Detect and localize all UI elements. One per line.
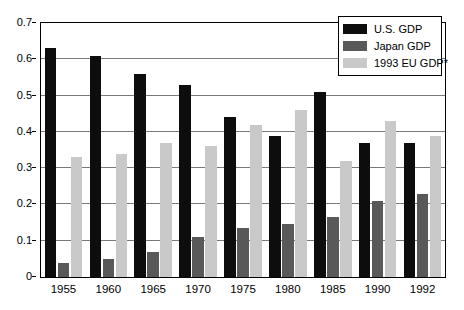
bar-japan: [103, 259, 115, 277]
y-tick-mark: [32, 203, 36, 204]
x-tick-label: 1965: [140, 283, 166, 296]
legend-label: Japan GDP: [374, 40, 431, 52]
x-tick-label: 1980: [275, 283, 301, 296]
bar-us: [90, 56, 102, 277]
y-tick-mark: [32, 240, 36, 241]
bar-us: [359, 143, 371, 277]
legend-item: Japan GDP: [343, 38, 437, 54]
bar-eu: [71, 157, 83, 277]
y-tick-label: 0.2: [17, 198, 32, 209]
bar-japan: [192, 237, 204, 277]
legend-label: 1993 EU GDP*: [374, 57, 448, 69]
bar-us: [134, 74, 146, 277]
bar-japan: [372, 201, 384, 277]
chart-legend: U.S. GDPJapan GDP1993 EU GDP*: [338, 16, 442, 76]
y-tick-label: 0.5: [17, 89, 32, 100]
x-tick-label: 1985: [320, 283, 346, 296]
bar-group: [86, 23, 131, 277]
bar-us: [314, 92, 326, 277]
bar-eu: [250, 125, 262, 277]
legend-swatch-icon: [343, 24, 367, 34]
bar-chart: 00.10.20.30.40.50.60.7 19551960196519701…: [0, 0, 464, 310]
bar-us: [224, 117, 236, 277]
bar-us: [404, 143, 416, 277]
y-axis: 00.10.20.30.40.50.60.7: [0, 22, 36, 278]
y-tick-mark: [32, 22, 36, 23]
bar-eu: [340, 161, 352, 277]
y-tick-mark: [32, 167, 36, 168]
y-tick-mark: [32, 95, 36, 96]
bar-japan: [417, 194, 429, 277]
bar-japan: [237, 228, 249, 277]
bar-japan: [327, 217, 339, 277]
bar-group: [41, 23, 86, 277]
legend-item: 1993 EU GDP*: [343, 55, 437, 71]
bar-group: [265, 23, 310, 277]
x-tick-label: 1960: [96, 283, 122, 296]
bar-eu: [116, 154, 128, 277]
bar-group: [176, 23, 221, 277]
legend-swatch-icon: [343, 41, 367, 51]
bar-eu: [160, 143, 172, 277]
bar-group: [221, 23, 266, 277]
bar-us: [45, 48, 57, 277]
bar-us: [179, 85, 191, 277]
bar-eu: [205, 146, 217, 277]
y-tick-mark: [32, 276, 36, 277]
y-tick-label: 0.4: [17, 125, 32, 136]
y-tick-label: 0.1: [17, 234, 32, 245]
bar-japan: [282, 224, 294, 277]
x-tick-label: 1992: [410, 283, 436, 296]
legend-swatch-icon: [343, 58, 367, 68]
bar-us: [269, 136, 281, 278]
y-tick-mark: [32, 58, 36, 59]
x-axis: 195519601965197019751980198519901992: [41, 283, 445, 303]
x-tick-label: 1970: [185, 283, 211, 296]
bar-group: [131, 23, 176, 277]
bar-eu: [295, 110, 307, 277]
x-tick-label: 1955: [51, 283, 77, 296]
bar-eu: [430, 136, 442, 278]
y-tick-label: 0.6: [17, 53, 32, 64]
bar-japan: [147, 252, 159, 277]
y-tick-label: 0.3: [17, 162, 32, 173]
x-tick-label: 1975: [230, 283, 256, 296]
bar-japan: [58, 263, 70, 278]
legend-label: U.S. GDP: [374, 23, 422, 35]
x-tick-label: 1990: [365, 283, 391, 296]
y-tick-label: 0.7: [17, 17, 32, 28]
y-tick-mark: [32, 131, 36, 132]
bar-eu: [385, 121, 397, 277]
legend-item: U.S. GDP: [343, 21, 437, 37]
